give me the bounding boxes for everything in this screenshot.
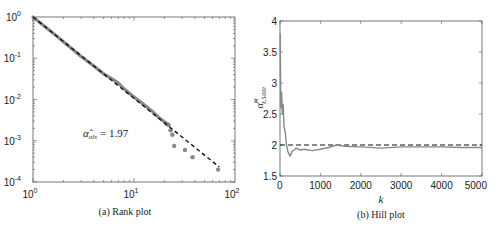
rank-ytick-label: 100 bbox=[6, 10, 21, 23]
hill-ytick-label: 2.5 bbox=[263, 109, 277, 120]
rank-data-point bbox=[170, 133, 174, 137]
hill-ytick-label: 3 bbox=[271, 78, 277, 89]
hill-plot-caption: (b) Hill plot bbox=[357, 209, 405, 221]
hill-ytick-label: 1.5 bbox=[263, 171, 277, 182]
rank-ytick-label: 10-2 bbox=[4, 93, 21, 106]
hill-plot-axes bbox=[280, 21, 482, 176]
hill-xtick-label: 3000 bbox=[390, 180, 413, 191]
rank-data-point bbox=[190, 155, 194, 159]
hill-xtick-label: 5000 bbox=[465, 180, 488, 191]
figure: 10010110210010-110-210-310-4 α̂ols= 1.97… bbox=[0, 0, 501, 230]
hill-xlabel: k bbox=[379, 193, 385, 205]
hill-ytick-label: 3.5 bbox=[263, 47, 277, 58]
rank-plot-panel: 10010110210010-110-210-310-4 α̂ols= 1.97… bbox=[4, 10, 240, 218]
rank-ytick-label: 10-4 bbox=[4, 175, 21, 188]
rank-plot-caption: (a) Rank plot bbox=[99, 206, 152, 218]
hill-xtick-label: 0 bbox=[277, 180, 283, 191]
rank-xtick-label: 100 bbox=[22, 187, 37, 200]
rank-ytick-label: 10-3 bbox=[4, 134, 21, 147]
rank-xtick-label: 102 bbox=[224, 187, 239, 200]
hill-xtick-label: 2000 bbox=[350, 180, 373, 191]
rank-xtick-label: 101 bbox=[123, 187, 138, 200]
hill-xtick-label: 1000 bbox=[309, 180, 332, 191]
rank-ytick-label: 10-1 bbox=[4, 51, 21, 64]
svg-text:α̂Hk,5000: α̂Hk,5000 bbox=[253, 88, 267, 109]
rank-data-point bbox=[183, 148, 187, 152]
hill-ylabel: α̂Hk,5000 bbox=[253, 88, 267, 109]
hill-xtick-label: 4000 bbox=[430, 180, 453, 191]
rank-data-point bbox=[216, 167, 220, 171]
hill-plot-panel: 01000200030004000500043.532.521.5 k α̂Hk… bbox=[253, 16, 487, 221]
hill-ytick-label: 2 bbox=[271, 140, 277, 151]
rank-data-point bbox=[172, 144, 176, 148]
hill-ytick-label: 4 bbox=[271, 16, 277, 27]
